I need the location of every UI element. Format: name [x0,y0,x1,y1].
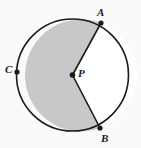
point-marker-a [98,20,103,25]
circle-diagram-svg [0,0,141,148]
point-label-c: C [5,64,12,75]
point-label-a: A [97,7,104,18]
point-label-p: P [78,68,85,79]
point-label-b: B [101,133,108,144]
point-marker-b [97,125,102,130]
geometry-figure: A B C P [0,0,141,148]
point-marker-c [14,69,19,74]
point-marker-p [70,72,76,78]
